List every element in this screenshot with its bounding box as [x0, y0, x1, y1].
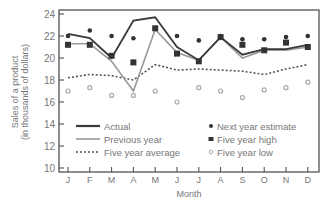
y-axis-label-line1: Sales of a product [10, 55, 20, 128]
y-tick-label: 18 [44, 75, 56, 86]
x-tick-label: J [66, 175, 71, 185]
x-tick-label: J [175, 175, 180, 185]
next-year-estimate-marker [262, 37, 267, 42]
next-year-estimate-marker [240, 37, 245, 42]
five-year-low-marker [219, 89, 223, 93]
y-tick-label: 22 [44, 31, 56, 42]
legend-item: Previous year [76, 134, 162, 145]
x-tick-label: A [218, 175, 224, 185]
x-tick-label: N [283, 175, 290, 185]
x-tick-label: F [87, 175, 93, 185]
five-year-low-marker [306, 80, 310, 84]
five-year-low-marker [110, 93, 114, 97]
legend-label: Next year estimate [217, 121, 296, 132]
y-tick-label: 10 [44, 163, 56, 174]
legend-item: Five year high [209, 134, 277, 145]
legend-label: Five year average [104, 147, 180, 158]
data-series [65, 17, 311, 104]
next-year-estimate-marker [306, 34, 311, 39]
five-year-high-marker [196, 58, 202, 64]
x-tick-label: O [261, 175, 268, 185]
y-axis-label: Sales of a product (in thousands of doll… [10, 44, 30, 140]
five-year-average-line [68, 65, 308, 80]
five-year-high-marker [305, 44, 311, 50]
five-year-low-marker [88, 86, 92, 90]
five-year-low-marker [153, 89, 157, 93]
five-year-high-marker [283, 40, 289, 46]
x-tick-label: A [130, 175, 136, 185]
y-axis-label-line2: (in thousands of dollars) [20, 44, 30, 140]
legend-item: Actual [76, 121, 130, 132]
actual-line [68, 17, 308, 60]
five-year-high-marker [261, 47, 267, 53]
five-year-low-marker [240, 96, 244, 100]
five-year-low-marker [66, 89, 70, 93]
legend-label: Five year low [217, 147, 273, 158]
legend-label: Actual [104, 121, 130, 132]
legend-square-swatch [209, 137, 214, 141]
sales-chart: Sales of a product (in thousands of doll… [0, 0, 336, 210]
five-year-high-marker [130, 59, 136, 65]
five-year-low-marker [175, 100, 179, 104]
previous-year-line [68, 29, 308, 91]
five-year-high-marker [218, 34, 224, 40]
y-tick-label: 14 [44, 119, 56, 130]
y-tick-label: 12 [44, 141, 56, 152]
legend-item: Next year estimate [209, 121, 296, 132]
next-year-estimate-marker [284, 35, 289, 40]
x-axis-ticks: JFMAMJJASOND [66, 167, 312, 185]
legend-dot-swatch [209, 124, 213, 128]
next-year-estimate-marker [131, 36, 136, 41]
five-year-high-marker [152, 25, 158, 31]
next-year-estimate-marker [197, 38, 202, 43]
plot-frame [59, 10, 319, 172]
legend: ActualPrevious yearFive year averageNext… [76, 121, 296, 158]
x-tick-label: M [151, 175, 159, 185]
legend-label: Previous year [104, 134, 162, 145]
y-axis-ticks: 1012141618202224 [44, 9, 64, 174]
five-year-low-marker [284, 86, 288, 90]
x-tick-label: S [239, 175, 245, 185]
five-year-high-marker [174, 51, 180, 57]
next-year-estimate-marker [109, 34, 114, 39]
five-year-high-marker [109, 53, 115, 59]
five-year-high-marker [87, 42, 93, 48]
x-tick-label: J [197, 175, 202, 185]
y-tick-label: 24 [44, 9, 56, 20]
legend-item: Five year low [209, 147, 273, 158]
five-year-low-marker [262, 88, 266, 92]
next-year-estimate-marker [88, 28, 93, 33]
y-tick-label: 16 [44, 97, 56, 108]
x-tick-label: D [305, 175, 312, 185]
x-axis-label: Month [176, 189, 201, 199]
legend-label: Five year high [217, 134, 277, 145]
five-year-low-marker [197, 86, 201, 90]
x-tick-label: M [108, 175, 116, 185]
five-year-low-marker [131, 93, 135, 97]
legend-ring-swatch [209, 150, 213, 154]
next-year-estimate-marker [175, 34, 180, 39]
five-year-high-marker [65, 42, 71, 48]
y-tick-label: 20 [44, 53, 56, 64]
next-year-estimate-marker [66, 34, 71, 39]
legend-item: Five year average [76, 147, 180, 158]
five-year-high-marker [239, 42, 245, 48]
